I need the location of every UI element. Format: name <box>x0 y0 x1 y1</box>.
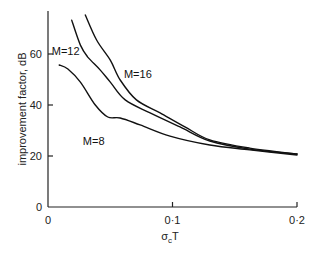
x-tick-label: 0·2 <box>289 214 305 226</box>
x-tick-label: 0 <box>45 214 51 226</box>
x-ticks: 00·10·2 <box>45 202 305 226</box>
y-ticks: 0204060 <box>30 48 53 213</box>
axes <box>48 11 297 207</box>
series-label-m-8: M=8 <box>83 135 105 147</box>
x-axis-label: σcT <box>161 230 179 245</box>
chart: 0204060 00·10·2 M=16M=12M=8 improvement … <box>0 0 323 254</box>
series-labels: M=16M=12M=8 <box>52 45 152 146</box>
y-tick-label: 0 <box>36 201 42 213</box>
x-tick-label: 0·1 <box>165 214 181 226</box>
series-label-m-16: M=16 <box>124 68 152 80</box>
curve-m-12 <box>72 20 297 154</box>
series-label-m-12: M=12 <box>52 45 80 57</box>
y-tick-label: 60 <box>30 48 42 60</box>
y-axis-label: improvement factor, dB <box>16 52 28 165</box>
y-tick-label: 20 <box>30 150 42 162</box>
y-tick-label: 40 <box>30 99 42 111</box>
x-axis-label-tail: T <box>172 230 179 242</box>
